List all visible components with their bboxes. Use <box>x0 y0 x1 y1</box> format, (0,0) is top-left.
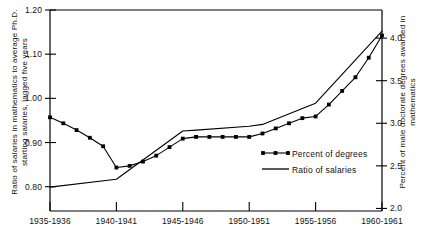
x-axis-tick-label: 1955-1956 <box>286 216 346 226</box>
plot-area <box>0 0 425 236</box>
y-axis-left-tick-label: 1.20 <box>0 5 42 15</box>
x-axis-tick-label: 1945-1946 <box>153 216 213 226</box>
x-axis-ticks <box>50 202 382 211</box>
y-axis-right-tick-label: 2.5 <box>390 161 402 171</box>
y-axis-right-tick-label: 3.5 <box>390 76 402 86</box>
legend-label-percent-of-degrees: Percent of degrees <box>292 149 367 159</box>
y-axis-left-tick-label: 0.90 <box>0 138 42 148</box>
y-axis-left-tick-label: 1.00 <box>0 93 42 103</box>
y-axis-right-tick-label: 3.0 <box>390 118 402 128</box>
series-ratio-of-salaries <box>50 31 382 187</box>
x-axis-tick-label: 1940-1941 <box>86 216 146 226</box>
chart-figure: Ratio of salaries in mathematics to aver… <box>0 0 425 236</box>
y-axis-left-tick-label: 0.80 <box>0 182 42 192</box>
x-axis-tick-label: 1935-1936 <box>20 216 80 226</box>
x-axis-tick-label: 1960-1961 <box>352 216 412 226</box>
legend-markers <box>261 151 290 169</box>
y-axis-right-tick-label: 2.0 <box>390 203 402 213</box>
y-axis-left-tick-label: 1.10 <box>0 49 42 59</box>
legend-label-ratio-of-salaries: Ratio of salaries <box>292 165 356 175</box>
x-axis-tick-label: 1950-1951 <box>219 216 279 226</box>
y-axis-right-tick-label: 4.0 <box>390 33 402 43</box>
